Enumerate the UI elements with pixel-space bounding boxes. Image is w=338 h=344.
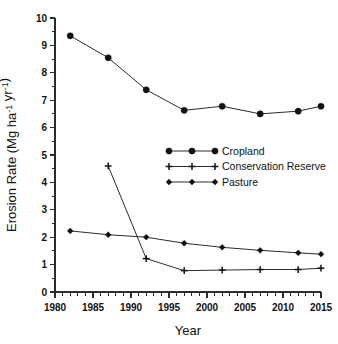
y-tick-label: 7 bbox=[41, 95, 47, 106]
y-tick-label: 4 bbox=[41, 177, 47, 188]
y-tick-label: 5 bbox=[41, 150, 47, 161]
marker-circle bbox=[67, 33, 73, 39]
x-tick-label: 2010 bbox=[272, 302, 295, 313]
y-tick-label: 8 bbox=[41, 67, 47, 78]
y-tick-label: 6 bbox=[41, 122, 47, 133]
y-tick-label: 2 bbox=[41, 232, 47, 243]
legend-label: Conservation Reserve bbox=[222, 160, 326, 172]
marker-circle bbox=[166, 148, 172, 154]
marker-circle bbox=[257, 111, 263, 117]
marker-circle bbox=[295, 108, 301, 114]
y-tick-label: 0 bbox=[41, 287, 47, 298]
y-tick-label: 3 bbox=[41, 204, 47, 215]
marker-circle bbox=[318, 103, 324, 109]
y-tick-label: 1 bbox=[41, 259, 47, 270]
chart-canvas: 012345678910 198019851990199520002005201… bbox=[0, 0, 338, 344]
marker-circle bbox=[212, 148, 218, 154]
marker-circle bbox=[105, 55, 111, 61]
x-axis-title: Year bbox=[175, 323, 202, 338]
x-tick-label: 2000 bbox=[196, 302, 219, 313]
legend-label: Cropland bbox=[222, 145, 265, 157]
x-tick-label: 1985 bbox=[82, 302, 105, 313]
x-tick-label: 1980 bbox=[44, 302, 67, 313]
x-tick-label: 1990 bbox=[120, 302, 143, 313]
erosion-rate-chart-figure: 012345678910 198019851990199520002005201… bbox=[0, 0, 338, 344]
y-tick-label: 9 bbox=[41, 40, 47, 51]
x-tick-label: 2015 bbox=[310, 302, 333, 313]
x-tick-label: 1995 bbox=[158, 302, 181, 313]
legend-label: Pasture bbox=[222, 176, 258, 188]
y-tick-label: 10 bbox=[36, 13, 48, 24]
marker-circle bbox=[219, 103, 225, 109]
marker-circle bbox=[181, 107, 187, 113]
marker-circle bbox=[189, 148, 195, 154]
x-tick-label: 2005 bbox=[234, 302, 257, 313]
marker-circle bbox=[143, 87, 149, 93]
